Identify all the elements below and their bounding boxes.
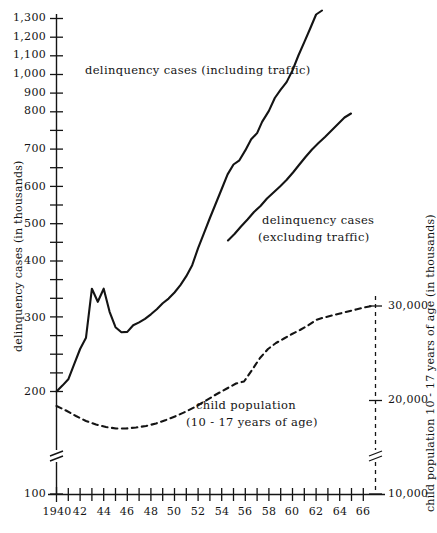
y-left-tick-1000: 1,000 [0, 67, 46, 80]
y-left-tick-100: 100 [0, 487, 46, 500]
y-axis-right-title: child population 10 - 17 years of age (i… [424, 214, 437, 512]
y-right-tick-10000: 10,000 [388, 487, 428, 500]
annotation-child-population-line2: (10 - 17 years of age) [186, 415, 318, 430]
y-left-tick-1100: 1,100 [0, 48, 46, 61]
annotation-excluding-traffic-line2: (excluding traffic) [258, 230, 370, 245]
y-right-tick-20000: 20,000 [388, 393, 428, 406]
y-axis-left-break-mark [50, 451, 63, 461]
y-left-tick-1200: 1,200 [0, 30, 46, 43]
y-axis-right-break-mark [369, 451, 382, 461]
y-axis-left-title: delinquency cases (in thousands) [12, 160, 25, 352]
annotation-including-traffic: delinquency cases (including traffic) [85, 63, 311, 78]
y-left-tick-900: 900 [0, 86, 46, 99]
y-left-tick-200: 200 [0, 385, 46, 398]
annotation-excluding-traffic-line1: delinquency cases [262, 213, 374, 228]
y-left-tick-700: 700 [0, 142, 46, 155]
x-tick-66: 66 [347, 505, 379, 518]
annotation-child-population-line1: child population [196, 398, 296, 413]
y-right-tick-30000: 30,000 [388, 299, 428, 312]
y-left-tick-800: 800 [0, 104, 46, 117]
y-left-tick-1300: 1,300 [0, 11, 46, 24]
